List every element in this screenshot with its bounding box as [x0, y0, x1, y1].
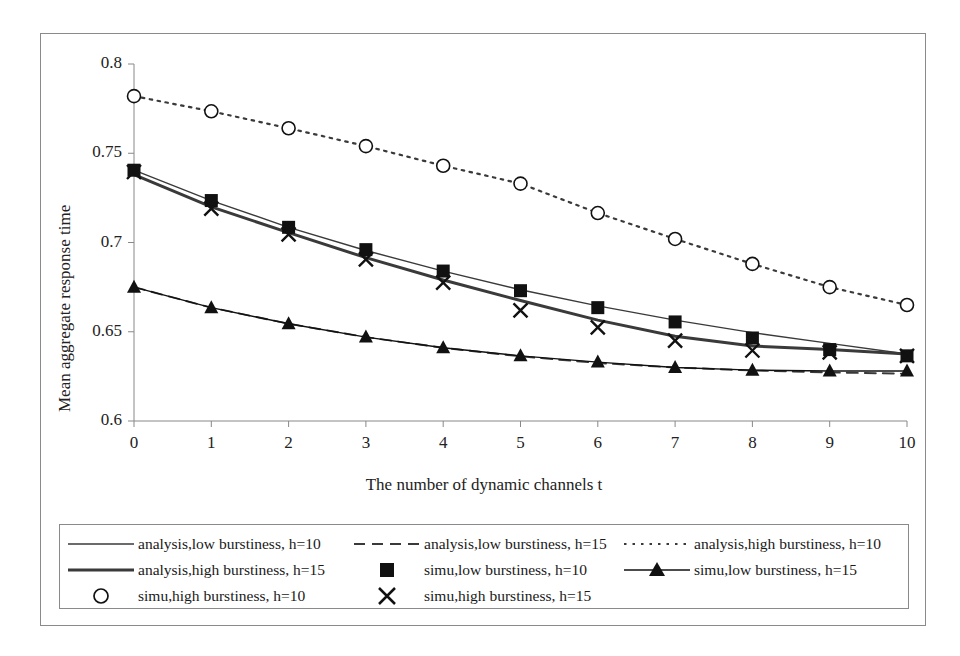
y-tick-label: 0.8	[41, 53, 122, 73]
legend-item[interactable]: analysis,high burstiness, h=10	[620, 530, 887, 557]
legend-marker	[350, 584, 424, 608]
legend-symbol-square	[350, 558, 424, 582]
legend-symbol-dotted	[620, 532, 694, 556]
x-tick-label: 2	[264, 433, 314, 453]
legend-marker	[64, 532, 138, 556]
x-tick-label: 9	[805, 433, 855, 453]
legend-symbol-line-triangle	[620, 558, 694, 582]
x-tick-label: 1	[186, 433, 236, 453]
legend-marker	[620, 558, 694, 582]
series-markers	[127, 165, 914, 363]
series-line	[134, 170, 907, 354]
legend-label: simu,high burstiness, h=15	[424, 587, 597, 605]
legend-item[interactable]: analysis,low burstiness, h=15	[350, 530, 613, 557]
legend-item[interactable]: simu,high burstiness, h=15	[350, 582, 597, 609]
legend-label: analysis,high burstiness, h=15	[138, 561, 331, 579]
legend-marker	[620, 532, 694, 556]
legend-row: simu,high burstiness, h=10simu,high burs…	[60, 582, 910, 609]
legend-item[interactable]: simu,low burstiness, h=15	[620, 556, 863, 583]
legend-marker	[64, 558, 138, 582]
legend-marker	[64, 584, 138, 608]
legend-label: simu,low burstiness, h=10	[424, 561, 593, 579]
legend-label: simu,low burstiness, h=15	[694, 561, 863, 579]
x-tick-label: 3	[341, 433, 391, 453]
x-axis-label: The number of dynamic channels t	[41, 475, 927, 495]
legend-symbol-cross	[350, 584, 424, 608]
y-tick-label: 0.6	[41, 410, 122, 430]
legend-label: analysis,low burstiness, h=15	[424, 535, 613, 553]
legend: analysis,low burstiness, h=10analysis,lo…	[59, 524, 909, 609]
legend-symbol-dashed	[350, 532, 424, 556]
series-line	[134, 96, 907, 305]
series-line	[134, 175, 907, 354]
series-markers	[128, 164, 914, 363]
legend-label: simu,high burstiness, h=10	[138, 587, 311, 605]
legend-marker	[350, 532, 424, 556]
legend-symbol-circle	[64, 584, 138, 608]
legend-symbol-solid-thick	[64, 558, 138, 582]
legend-label: analysis,low burstiness, h=10	[138, 535, 327, 553]
legend-marker	[350, 558, 424, 582]
y-tick-label: 0.75	[41, 142, 122, 162]
x-tick-label: 0	[109, 433, 159, 453]
legend-item[interactable]: analysis,high burstiness, h=15	[64, 556, 331, 583]
legend-row: analysis,low burstiness, h=10analysis,lo…	[60, 530, 910, 557]
legend-symbol-solid-thin	[64, 532, 138, 556]
figure-frame: Mean aggregate response time 0.60.650.70…	[40, 33, 926, 626]
y-tick-label: 0.7	[41, 232, 122, 252]
legend-item[interactable]: simu,high burstiness, h=10	[64, 582, 311, 609]
x-tick-label: 10	[882, 433, 932, 453]
x-tick-label: 7	[650, 433, 700, 453]
legend-item[interactable]: analysis,low burstiness, h=10	[64, 530, 327, 557]
legend-item[interactable]: simu,low burstiness, h=10	[350, 556, 593, 583]
x-tick-label: 6	[573, 433, 623, 453]
x-tick-label: 4	[418, 433, 468, 453]
y-tick-label: 0.65	[41, 321, 122, 341]
x-tick-label: 8	[727, 433, 777, 453]
x-tick-label: 5	[496, 433, 546, 453]
legend-label: analysis,high burstiness, h=10	[694, 535, 887, 553]
series-markers	[128, 90, 914, 312]
legend-row: analysis,high burstiness, h=15simu,low b…	[60, 556, 910, 583]
